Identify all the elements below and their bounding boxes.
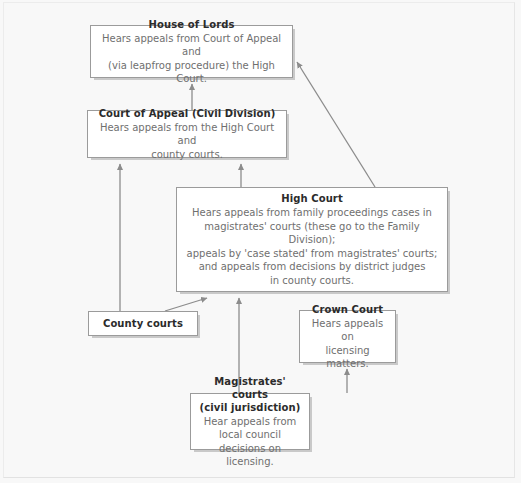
node-house-of-lords-title: House of Lords	[149, 18, 235, 31]
node-court-of-appeal-body: Hears appeals from the High Court and co…	[94, 121, 280, 162]
node-crown-court-body: Hears appeals on licensing matters.	[306, 317, 389, 371]
node-crown-court[interactable]: Crown Court Hears appeals on licensing m…	[299, 310, 396, 363]
arrow-high-court-to-house-of-lords	[297, 62, 375, 187]
arrow-county-courts-to-high-court	[165, 298, 207, 311]
node-county-courts-title: County courts	[103, 317, 183, 330]
node-magistrates-courts-body: Hear appeals from local council decision…	[197, 415, 303, 469]
node-house-of-lords[interactable]: House of Lords Hears appeals from Court …	[90, 25, 293, 78]
node-court-of-appeal[interactable]: Court of Appeal (Civil Division) Hears a…	[87, 110, 287, 158]
node-county-courts[interactable]: County courts	[88, 311, 198, 336]
node-court-of-appeal-title: Court of Appeal (Civil Division)	[99, 107, 276, 120]
node-high-court-body: Hears appeals from family proceedings ca…	[183, 206, 441, 287]
node-magistrates-courts-title: Magistrates' courts (civil jurisdiction)	[197, 375, 303, 414]
node-magistrates-courts[interactable]: Magistrates' courts (civil jurisdiction)…	[190, 393, 310, 450]
node-crown-court-title: Crown Court	[312, 303, 383, 316]
node-house-of-lords-body: Hears appeals from Court of Appeal and (…	[97, 32, 286, 86]
diagram-canvas: House of Lords Hears appeals from Court …	[0, 0, 521, 483]
node-high-court-title: High Court	[281, 192, 343, 205]
node-high-court[interactable]: High Court Hears appeals from family pro…	[176, 187, 448, 292]
